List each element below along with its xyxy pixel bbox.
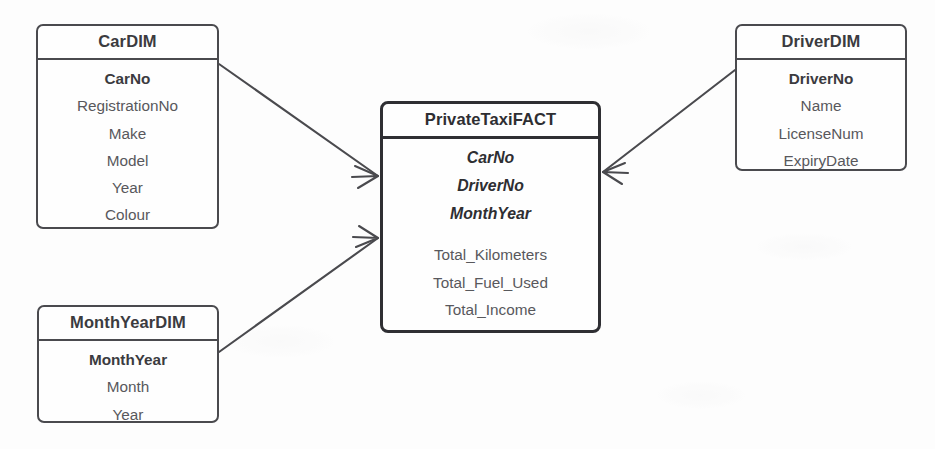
- entity-title-privatetaxifact: PrivateTaxiFACT: [383, 104, 598, 139]
- entity-monthyeardim[interactable]: MonthYearDIM MonthYear Month Year: [37, 305, 219, 423]
- attribute-row: Colour: [38, 201, 217, 228]
- entity-body-driverdim: DriverNo Name LicenseNum ExpiryDate: [737, 60, 905, 174]
- relationship-monthyeardim-fact: [219, 226, 378, 352]
- attribute-foreign-key: DriverNo: [383, 172, 598, 200]
- attribute-row: Model: [38, 147, 217, 174]
- attribute-foreign-key: CarNo: [383, 144, 598, 172]
- relationship-cardim-fact: [219, 64, 378, 188]
- attribute-row: RegistrationNo: [38, 92, 217, 119]
- entity-title-cardim: CarDIM: [38, 26, 217, 60]
- attribute-row: ExpiryDate: [737, 147, 905, 174]
- attribute-measure: Total_Kilometers: [383, 241, 598, 268]
- er-diagram-canvas: CarDIM CarNo RegistrationNo Make Model Y…: [0, 0, 935, 449]
- attribute-primary-key: DriverNo: [737, 65, 905, 92]
- attribute-foreign-key: MonthYear: [383, 200, 598, 228]
- attribute-measure: Total_Income: [383, 296, 598, 323]
- entity-body-cardim: CarNo RegistrationNo Make Model Year Col…: [38, 60, 217, 229]
- entity-body-privatetaxifact: CarNo DriverNo MonthYear Total_Kilometer…: [383, 139, 598, 330]
- entity-driverdim[interactable]: DriverDIM DriverNo Name LicenseNum Expir…: [735, 24, 907, 171]
- attribute-row: LicenseNum: [737, 120, 905, 147]
- entity-title-driverdim: DriverDIM: [737, 26, 905, 60]
- attribute-row: Year: [38, 174, 217, 201]
- attribute-row: Year: [39, 401, 217, 428]
- relationship-driverdim-fact: [603, 70, 735, 184]
- attribute-row: Month: [39, 373, 217, 400]
- fact-section-divider: [383, 227, 598, 241]
- entity-title-monthyeardim: MonthYearDIM: [39, 307, 217, 341]
- entity-privatetaxifact[interactable]: PrivateTaxiFACT CarNo DriverNo MonthYear…: [380, 101, 601, 333]
- attribute-primary-key: MonthYear: [39, 346, 217, 373]
- attribute-row: Name: [737, 92, 905, 119]
- attribute-row: Make: [38, 120, 217, 147]
- attribute-measure: Total_Fuel_Used: [383, 269, 598, 296]
- entity-cardim[interactable]: CarDIM CarNo RegistrationNo Make Model Y…: [36, 24, 219, 229]
- entity-body-monthyeardim: MonthYear Month Year: [39, 341, 217, 428]
- attribute-primary-key: CarNo: [38, 65, 217, 92]
